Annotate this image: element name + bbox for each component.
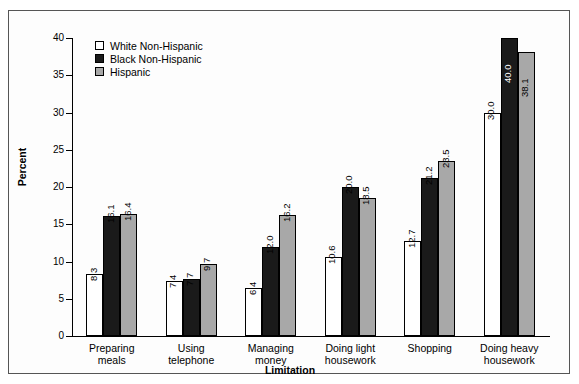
- bar-group: 8.316.116.4: [86, 38, 137, 336]
- bar-value-label: 8.3: [89, 268, 99, 281]
- bar-value-label: 40.0: [503, 65, 513, 84]
- y-tick-label: 15: [38, 219, 64, 229]
- bar[interactable]: 40.0: [501, 38, 518, 336]
- y-tick-label: 0: [38, 331, 64, 341]
- bar-group: 12.721.223.5: [404, 38, 455, 336]
- bar-value-label: 23.5: [441, 149, 451, 168]
- bar[interactable]: 21.2: [421, 178, 438, 336]
- y-tick-label: 20: [38, 182, 64, 192]
- bar[interactable]: 18.5: [359, 198, 376, 336]
- y-tick-label: 25: [38, 145, 64, 155]
- x-axis-title: Limitation: [9, 364, 571, 376]
- bar-value-label: 9.7: [202, 258, 212, 271]
- plot-area: 8.316.116.47.47.79.76.412.016.210.620.01…: [72, 38, 549, 336]
- y-axis-title: Percent: [16, 127, 28, 207]
- y-tick-label: 5: [38, 294, 64, 304]
- y-tick-label: 35: [38, 70, 64, 80]
- bar[interactable]: 9.7: [200, 264, 217, 336]
- bar-value-label: 20.0: [344, 176, 354, 195]
- x-axis-category-line: Doing heavy: [461, 342, 557, 354]
- y-tick-label: 40: [38, 33, 64, 43]
- legend-swatch-icon: [95, 67, 104, 76]
- bar[interactable]: 16.4: [120, 214, 137, 336]
- legend-swatch-icon: [95, 41, 104, 50]
- bar[interactable]: 30.0: [484, 113, 501, 337]
- bar[interactable]: 38.1: [518, 52, 535, 336]
- bar-value-label: 16.4: [123, 202, 133, 221]
- y-tick-label: 30: [38, 108, 64, 118]
- bar-value-label: 10.6: [327, 246, 337, 265]
- legend-label: Hispanic: [110, 66, 150, 78]
- bar-value-label: 18.5: [361, 187, 371, 206]
- legend-label: Black Non-Hispanic: [110, 53, 202, 65]
- bar-value-label: 16.2: [282, 204, 292, 223]
- y-tick-label: 10: [38, 257, 64, 267]
- bar-group: 10.620.018.5: [325, 38, 376, 336]
- bar-value-label: 7.4: [168, 275, 178, 288]
- bar[interactable]: 12.7: [404, 241, 421, 336]
- bar[interactable]: 16.2: [279, 215, 296, 336]
- bar-group: 6.412.016.2: [245, 38, 296, 336]
- chart-figure-frame: 0510152025303540 Percent 8.316.116.47.47…: [8, 10, 570, 374]
- x-axis-line: [72, 336, 550, 337]
- bar-value-label: 38.1: [520, 79, 530, 98]
- bar-value-label: 30.0: [486, 101, 496, 120]
- bar[interactable]: 7.7: [183, 279, 200, 336]
- bar[interactable]: 20.0: [342, 187, 359, 336]
- chart-legend: White Non-HispanicBlack Non-HispanicHisp…: [95, 39, 203, 78]
- legend-swatch-icon: [95, 54, 104, 63]
- bar[interactable]: 12.0: [262, 247, 279, 336]
- bar[interactable]: 10.6: [325, 257, 342, 336]
- bar-value-label: 21.2: [424, 167, 434, 186]
- legend-item[interactable]: White Non-Hispanic: [95, 39, 203, 52]
- bar[interactable]: 7.4: [166, 281, 183, 336]
- bar-value-label: 16.1: [106, 205, 116, 224]
- bar[interactable]: 16.1: [103, 216, 120, 336]
- bar-group: 7.47.79.7: [166, 38, 217, 336]
- bar-value-label: 12.0: [265, 235, 275, 254]
- bar-value-label: 12.7: [407, 230, 417, 249]
- bar-value-label: 6.4: [248, 282, 258, 295]
- bar[interactable]: 6.4: [245, 288, 262, 336]
- bar-group: 30.040.038.1: [484, 38, 535, 336]
- legend-label: White Non-Hispanic: [110, 40, 203, 52]
- y-tick-mark: [66, 336, 72, 337]
- bar-value-label: 7.7: [185, 272, 195, 285]
- legend-item[interactable]: Black Non-Hispanic: [95, 52, 203, 65]
- x-axis-category-label: Doing heavyhousework: [461, 342, 557, 366]
- bar[interactable]: 8.3: [86, 274, 103, 336]
- legend-item[interactable]: Hispanic: [95, 65, 203, 78]
- bar[interactable]: 23.5: [438, 161, 455, 336]
